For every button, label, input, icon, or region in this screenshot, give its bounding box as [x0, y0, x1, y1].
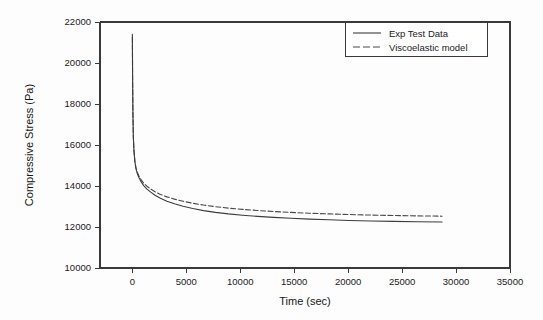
plot-frame — [100, 22, 510, 268]
y-tick-label: 12000 — [65, 221, 91, 232]
x-tick-label: 35000 — [497, 276, 523, 287]
y-tick-label: 20000 — [65, 57, 91, 68]
y-tick-label: 22000 — [65, 16, 91, 27]
legend-label-exp-test-data: Exp Test Data — [389, 28, 449, 39]
data-series-group — [132, 34, 442, 222]
series-line-exp-test-data — [132, 34, 442, 222]
x-tick-label: 20000 — [335, 276, 361, 287]
y-tick-label: 10000 — [65, 262, 91, 273]
x-tick-label: 5000 — [176, 276, 197, 287]
y-tick-label: 14000 — [65, 180, 91, 191]
x-tick-label: 0 — [130, 276, 135, 287]
chart-legend: Exp Test Data Viscoelastic model — [346, 23, 488, 57]
y-axis-title: Compressive Stress (Pa) — [23, 84, 35, 206]
series-line-viscoelastic-model — [132, 37, 442, 216]
x-tick-label: 25000 — [389, 276, 415, 287]
y-tick-label: 16000 — [65, 139, 91, 150]
x-axis-title: Time (sec) — [279, 295, 331, 307]
plot-border — [100, 22, 510, 268]
chart-canvas: 10000120001400016000180002000022000 0500… — [0, 0, 543, 320]
plot-axes — [100, 22, 510, 268]
chart-figure: 10000120001400016000180002000022000 0500… — [0, 0, 543, 320]
y-tick-label: 18000 — [65, 98, 91, 109]
x-tick-label: 15000 — [281, 276, 307, 287]
x-tick-label: 10000 — [227, 276, 253, 287]
x-axis-ticks: 05000100001500020000250003000035000 — [130, 268, 523, 287]
legend-label-viscoelastic-model: Viscoelastic model — [389, 42, 468, 53]
y-axis-ticks: 10000120001400016000180002000022000 — [65, 16, 100, 273]
x-tick-label: 30000 — [443, 276, 469, 287]
